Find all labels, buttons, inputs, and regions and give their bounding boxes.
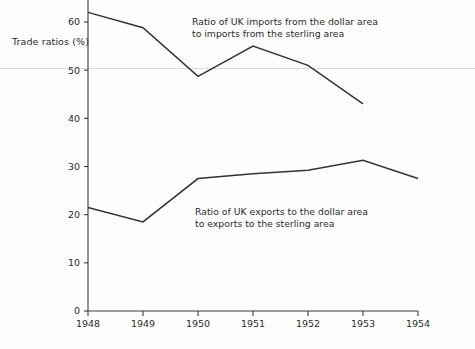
x-tick-label-1953: 1953 [351, 318, 375, 329]
x-tick-label-1952: 1952 [296, 318, 320, 329]
x-tick-label-1951: 1951 [241, 318, 265, 329]
x-axis-tick-labels: 1948194919501951195219531954 [76, 318, 430, 329]
x-tick-label-1950: 1950 [186, 318, 210, 329]
y-tick-label-60: 60 [68, 16, 80, 27]
x-tick-label-1949: 1949 [131, 318, 155, 329]
x-axis-ticks [88, 311, 418, 316]
chart-plot-area: 0102030405060 19481949195019511952195319… [0, 0, 475, 349]
chart-figure: Trade ratios (%) Ratio of UK imports fro… [0, 0, 475, 349]
y-tick-label-0: 0 [74, 305, 80, 316]
x-tick-label-1954: 1954 [406, 318, 430, 329]
series-line-imports [88, 12, 363, 104]
y-axis-ticks [84, 22, 88, 311]
series-line-exports [88, 160, 418, 222]
y-tick-label-20: 20 [68, 209, 80, 220]
x-tick-label-1948: 1948 [76, 318, 100, 329]
y-tick-label-30: 30 [68, 161, 80, 172]
y-tick-label-10: 10 [68, 257, 80, 268]
y-tick-label-50: 50 [68, 65, 80, 76]
y-axis-tick-labels: 0102030405060 [68, 16, 80, 316]
y-tick-label-40: 40 [68, 113, 80, 124]
